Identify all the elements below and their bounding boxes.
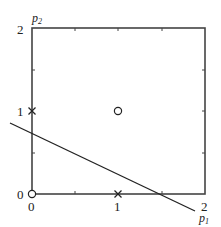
x-tick-0: 0 <box>28 199 35 214</box>
circle-marker-0-0 <box>28 190 35 197</box>
x-tick-1: 1 <box>114 199 121 214</box>
circle-marker-1-1 <box>114 107 121 114</box>
y-tick-0: 0 <box>17 187 24 202</box>
y-tick-2: 2 <box>17 22 24 37</box>
y-tick-1: 1 <box>17 104 24 119</box>
chart: 2 1 0 0 1 2 p2 p1 <box>0 0 221 227</box>
decision-boundary-line <box>10 123 195 211</box>
y-axis-label: p2 <box>31 11 42 26</box>
